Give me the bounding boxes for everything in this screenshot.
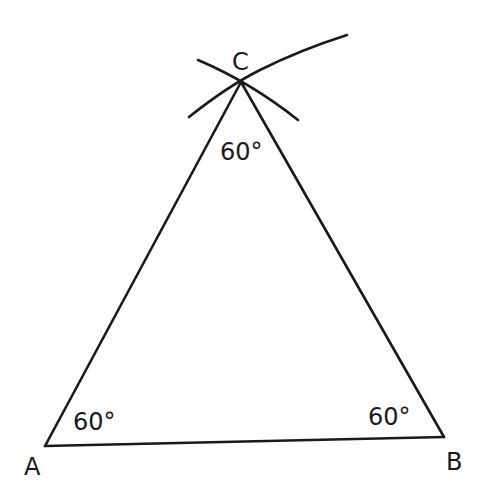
- side-ab: [45, 437, 444, 446]
- side-bc: [241, 82, 444, 437]
- construction-arc-from-b: [189, 35, 347, 117]
- vertex-label-b: B: [446, 448, 462, 476]
- vertex-label-a: A: [24, 453, 41, 481]
- angle-label-b: 60°: [368, 403, 411, 431]
- angle-label-a: 60°: [73, 408, 116, 436]
- triangle-diagram: C A B 60° 60° 60°: [0, 0, 491, 503]
- side-ac: [45, 82, 241, 446]
- angle-label-c: 60°: [220, 138, 263, 166]
- vertex-label-c: C: [232, 48, 249, 76]
